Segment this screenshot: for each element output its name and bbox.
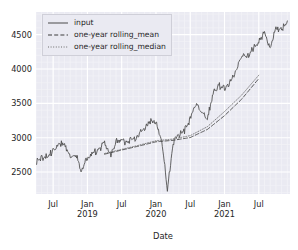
legend-entry: input (47, 18, 166, 28)
legend-entry: one-year rolling_mean (47, 30, 166, 40)
x-tick-label-line1: Jul (254, 199, 264, 209)
legend-line-swatch (47, 31, 69, 39)
x-tick-label: Jul (48, 199, 58, 209)
x-tick-label: Jul (254, 199, 264, 209)
x-tick-label-line2: 2020 (146, 209, 167, 219)
x-tick-label: Jan2020 (146, 199, 167, 219)
y-tick-label: 4000 (2, 64, 32, 74)
legend-line-swatch (47, 43, 69, 51)
x-tick-label: Jan2019 (77, 199, 98, 219)
y-tick-label: 2500 (2, 167, 32, 177)
x-tick-label: Jan2021 (214, 199, 235, 219)
x-tick-label-line2: 2021 (214, 209, 235, 219)
x-tick-label-line1: Jul (48, 199, 58, 209)
legend-label: one-year rolling_mean (74, 31, 159, 39)
x-axis-title: Date (153, 231, 173, 241)
x-tick-label-line1: Jan (214, 199, 235, 209)
y-tick-label: 3000 (2, 133, 32, 143)
x-tick-label-line1: Jan (146, 199, 167, 209)
x-tick-label-line2: 2019 (77, 209, 98, 219)
x-tick-label: Jul (117, 199, 127, 209)
legend-label: input (74, 19, 94, 27)
legend-label: one-year rolling_median (74, 43, 166, 51)
y-tick-label: 3500 (2, 98, 32, 108)
figure: 25003000350040004500 JulJan2019JulJan202… (0, 0, 298, 250)
legend-entry: one-year rolling_median (47, 42, 166, 52)
y-tick-label: 4500 (2, 30, 32, 40)
x-tick-label-line1: Jul (185, 199, 195, 209)
x-tick-label-line1: Jul (117, 199, 127, 209)
x-tick-label: Jul (185, 199, 195, 209)
legend-line-swatch (47, 19, 69, 27)
x-tick-label-line1: Jan (77, 199, 98, 209)
chart-legend: inputone-year rolling_meanone-year rolli… (42, 14, 172, 56)
